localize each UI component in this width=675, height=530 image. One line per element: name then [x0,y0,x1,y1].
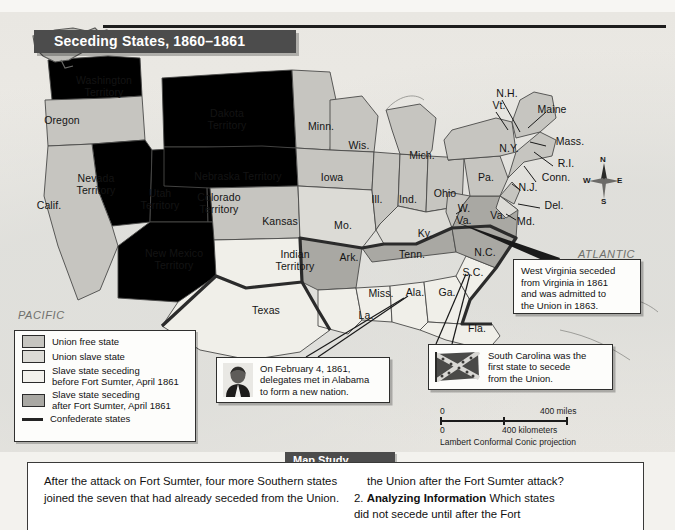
scale-miles-zero: 0 [440,406,445,416]
question-1-continuation: the Union after the Fort Sumter attack? [354,473,643,490]
legend-swatch-after [22,394,45,407]
compass-west: W [583,176,591,185]
legend-label-before: Slave state seceding before Fort Sumter,… [52,365,179,387]
compass-rose: N E S W [583,155,625,207]
scale-miles-value: 400 miles [540,406,576,416]
legend-item-after: Slave state seceding after Fort Sumter, … [22,389,195,411]
compass-south: S [601,197,606,206]
map-study-left-text: After the attack on Fort Sumter, four mo… [28,463,344,530]
callout-west-virginia-text: West Virginia seceded from Virginia in 1… [521,265,633,311]
title-rule [103,25,666,28]
legend-swatch-free [22,335,45,348]
callout-south-carolina: South Carolina was the first state to se… [428,344,613,390]
callout-alabama-text: On February 4, 1861, delegates met in Al… [260,363,369,398]
legend-swatch-uslave [22,350,45,363]
map-title: Seceding States, 1860–1861 [34,30,296,53]
legend-label-line: Confederate states [50,413,130,424]
map-projection-label: Lambert Conformal Conic projection [440,437,610,447]
legend-label-free: Union free state [52,336,119,347]
portrait-jefferson-davis-icon [223,363,253,397]
confederate-battle-flag-icon [435,352,480,382]
map-page: Washington TerritoryOregonCalif.Nevada T… [0,0,675,530]
scale-km-value: 400 kilometers [502,425,557,435]
legend-label-after: Slave state seceding after Fort Sumter, … [52,389,171,411]
legend-item-line: Confederate states [22,413,195,424]
map-legend: Union free stateUnion slave stateSlave s… [14,330,196,442]
callout-alabama: On February 4, 1861, delegates met in Al… [216,357,390,403]
callout-west-virginia: West Virginia seceded from Virginia in 1… [513,259,641,314]
map-study-box: After the attack on Fort Sumter, four mo… [27,462,644,530]
legend-item-free: Union free state [22,335,195,348]
compass-east: E [617,176,622,185]
map-study-questions: the Union after the Fort Sumter attack? … [344,463,643,530]
question-2-rest: Which states [486,492,554,504]
legend-item-uslave: Union slave state [22,350,195,363]
legend-item-before: Slave state seceding before Fort Sumter,… [22,365,195,387]
question-2-number: 2. [354,492,364,504]
question-2: 2. Analyzing Information Which states di… [354,490,643,523]
legend-label-uslave: Union slave state [52,351,125,362]
question-2-skill: Analyzing Information [367,492,487,504]
callout-south-carolina-text: South Carolina was the first state to se… [488,350,586,385]
legend-swatch-line [22,418,43,421]
compass-north: N [600,155,606,164]
legend-swatch-before [22,370,45,383]
scale-km-zero: 0 [440,425,445,435]
question-2-line2: did not secede until after the Fort [367,506,643,523]
map-title-banner: Seceding States, 1860–1861 [34,30,296,53]
map-scale-bar: 0 400 miles 0 400 kilometers Lambert Con… [440,406,610,447]
